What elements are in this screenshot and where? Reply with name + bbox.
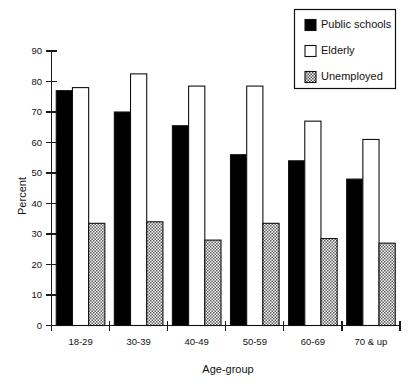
- legend-swatch-unemployed: [305, 72, 316, 83]
- bar-unemployed-70-up: [379, 243, 395, 325]
- x-tick-label: 18-29: [68, 336, 92, 347]
- x-tick-label: 50-59: [243, 336, 267, 347]
- bar-public-schools-18-29: [56, 91, 72, 326]
- bar-elderly-70-up: [363, 139, 379, 325]
- y-tick-label: 30: [31, 228, 42, 239]
- bar-unemployed-50-59: [263, 223, 279, 325]
- y-tick-label: 20: [31, 259, 42, 270]
- y-tick-label: 80: [31, 76, 42, 87]
- bar-chart-figure: 0102030405060708090 18-2930-3940-4950-59…: [0, 0, 420, 390]
- bar-public-schools-50-59: [230, 155, 246, 326]
- bar-public-schools-70-up: [347, 179, 363, 325]
- bar-public-schools-60-69: [289, 161, 305, 326]
- y-tick-label: 70: [31, 106, 42, 117]
- x-axis-title: Age-group: [202, 363, 253, 375]
- bar-elderly-40-49: [189, 86, 205, 325]
- legend-swatch-elderly: [305, 46, 316, 57]
- x-tick-label: 30-39: [126, 336, 150, 347]
- y-tick-label: 10: [31, 289, 42, 300]
- bar-elderly-30-39: [131, 74, 147, 326]
- chart-canvas: 0102030405060708090 18-2930-3940-4950-59…: [0, 0, 420, 390]
- plot-area: 0102030405060708090 18-2930-3940-4950-59…: [31, 45, 400, 346]
- x-tick-label: 60-69: [301, 336, 325, 347]
- legend-swatch-public-schools: [305, 20, 316, 31]
- y-tick-label: 40: [31, 198, 42, 209]
- bar-public-schools-40-49: [172, 126, 188, 326]
- legend-label-elderly: Elderly: [321, 44, 355, 56]
- y-axis-title: Percent: [16, 177, 28, 215]
- bar-unemployed-18-29: [89, 223, 105, 325]
- legend-label-unemployed: Unemployed: [321, 70, 383, 82]
- bar-unemployed-40-49: [205, 240, 221, 325]
- legend: Public schoolsElderlyUnemployed: [295, 10, 396, 89]
- y-axis-tick-labels: 0102030405060708090: [31, 45, 42, 331]
- y-tick-label: 0: [37, 320, 42, 331]
- bars-layer: [56, 74, 395, 326]
- x-tick-label: 40-49: [185, 336, 209, 347]
- bar-elderly-60-69: [305, 121, 321, 325]
- y-tick-label: 50: [31, 167, 42, 178]
- bar-public-schools-30-39: [114, 112, 130, 326]
- y-tick-label: 60: [31, 137, 42, 148]
- bar-unemployed-30-39: [147, 222, 163, 326]
- legend-label-public-schools: Public schools: [321, 18, 392, 30]
- bar-elderly-50-59: [247, 86, 263, 325]
- bar-elderly-18-29: [72, 88, 88, 326]
- x-axis-tick-labels: 18-2930-3940-4950-5960-6970 & up: [68, 336, 387, 347]
- y-tick-label: 90: [31, 45, 42, 56]
- bar-unemployed-60-69: [321, 239, 337, 326]
- y-axis: 0102030405060708090: [31, 45, 57, 331]
- x-tick-label: 70 & up: [355, 336, 388, 347]
